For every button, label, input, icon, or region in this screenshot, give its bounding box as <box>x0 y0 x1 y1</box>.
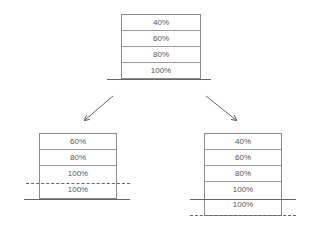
right-cell-2: 60% <box>205 150 281 166</box>
right-cell-1: 40% <box>205 134 281 150</box>
right-dashed-baseline <box>190 215 296 216</box>
right-stack: 40% 60% 80% 100% 100% <box>204 133 282 216</box>
right-cell-4: 100% <box>205 182 281 198</box>
arrow-right-icon <box>206 96 236 120</box>
left-cell-4: 100% <box>40 182 116 198</box>
left-stack: 60% 80% 100% 100% <box>39 133 117 199</box>
left-cell-3: 100% <box>40 166 116 182</box>
right-cell-3: 80% <box>205 166 281 182</box>
left-cell-1: 60% <box>40 134 116 150</box>
arrow-left-icon <box>85 96 113 120</box>
left-dashed-line <box>26 183 130 184</box>
left-cell-2: 80% <box>40 150 116 166</box>
left-baseline <box>24 199 130 200</box>
right-cell-5: 100% <box>205 198 281 212</box>
right-solid-line <box>190 199 296 200</box>
